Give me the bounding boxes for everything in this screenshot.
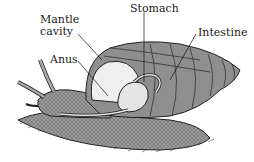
snail-illustration [0, 0, 254, 162]
label-cavity-line2: cavity [40, 26, 79, 38]
tentacle-left-inner [18, 82, 44, 97]
snail-anatomy-diagram: Mantle cavity Anus Stomach Intestine [0, 0, 254, 162]
label-anus: Anus [50, 54, 78, 66]
snail-foot [18, 112, 210, 150]
lower-tentacle [26, 104, 38, 106]
label-intestine: Intestine [198, 27, 248, 39]
label-stomach: Stomach [130, 3, 179, 15]
label-mantle-cavity: Mantle cavity [40, 14, 79, 38]
